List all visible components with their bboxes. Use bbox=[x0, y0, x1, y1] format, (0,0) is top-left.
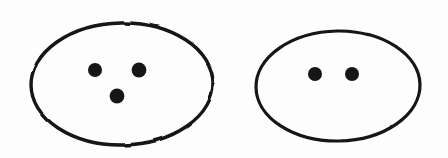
drawing-canvas bbox=[0, 0, 448, 158]
figure-svg bbox=[0, 0, 448, 158]
right-dot-right bbox=[345, 67, 359, 81]
left-dot-upper-left bbox=[88, 63, 102, 77]
left-dot-upper-right bbox=[132, 63, 147, 78]
right-dot-left bbox=[308, 67, 322, 81]
left-dot-bottom bbox=[110, 89, 125, 104]
